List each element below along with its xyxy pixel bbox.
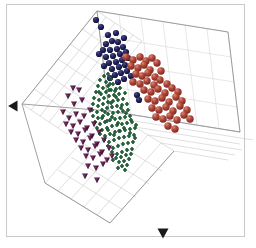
scatter-points-layer bbox=[60, 17, 194, 183]
data-point bbox=[107, 140, 111, 144]
data-point bbox=[91, 102, 95, 106]
data-point bbox=[115, 79, 121, 85]
data-point bbox=[81, 114, 87, 120]
scatter3d-scene bbox=[0, 0, 256, 248]
data-point bbox=[79, 98, 85, 104]
data-point bbox=[159, 115, 166, 122]
data-point bbox=[129, 78, 136, 85]
data-point bbox=[98, 78, 102, 82]
data-point bbox=[110, 105, 114, 109]
data-point bbox=[153, 59, 160, 66]
data-point bbox=[124, 153, 128, 157]
data-point bbox=[118, 86, 122, 90]
data-point bbox=[95, 110, 99, 114]
data-point bbox=[103, 54, 109, 60]
data-point bbox=[127, 62, 134, 69]
data-point bbox=[101, 63, 107, 69]
data-point bbox=[107, 47, 113, 53]
data-point bbox=[120, 150, 124, 154]
data-point bbox=[176, 102, 183, 109]
data-point bbox=[98, 24, 104, 30]
data-point bbox=[154, 85, 161, 92]
data-point bbox=[101, 86, 105, 90]
data-point bbox=[96, 104, 100, 108]
data-point bbox=[92, 96, 96, 100]
data-point bbox=[155, 106, 162, 113]
data-point bbox=[123, 115, 127, 119]
data-point bbox=[96, 51, 102, 57]
data-point bbox=[94, 178, 100, 184]
scatter3d-figure bbox=[0, 0, 256, 248]
data-point bbox=[140, 61, 147, 68]
data-point bbox=[122, 159, 126, 163]
data-point bbox=[90, 156, 96, 162]
data-point bbox=[97, 98, 101, 102]
data-point bbox=[126, 141, 130, 145]
data-point bbox=[91, 122, 97, 128]
data-point bbox=[152, 113, 159, 120]
data-point bbox=[101, 138, 107, 144]
data-point bbox=[103, 41, 109, 47]
data-point bbox=[121, 142, 125, 146]
data-point bbox=[136, 97, 142, 103]
data-point bbox=[121, 35, 127, 41]
data-point bbox=[131, 140, 135, 144]
data-point bbox=[65, 94, 71, 100]
data-point bbox=[105, 32, 111, 38]
data-point bbox=[140, 86, 147, 93]
axes-cube-wireframe bbox=[22, 11, 253, 223]
data-point bbox=[117, 136, 121, 140]
data-point bbox=[95, 126, 99, 130]
data-point bbox=[108, 132, 112, 136]
data-point bbox=[117, 51, 123, 57]
series-cluster-green bbox=[90, 72, 138, 172]
data-point bbox=[110, 124, 114, 128]
data-point bbox=[115, 39, 121, 45]
data-point bbox=[111, 146, 115, 150]
data-point bbox=[110, 53, 116, 59]
data-point bbox=[103, 134, 107, 138]
data-point bbox=[186, 115, 193, 122]
data-point bbox=[144, 95, 151, 102]
data-point bbox=[113, 30, 119, 36]
data-point bbox=[66, 116, 72, 122]
data-point bbox=[151, 97, 158, 104]
data-point bbox=[162, 103, 169, 110]
data-point bbox=[122, 53, 129, 60]
data-point bbox=[109, 66, 115, 72]
data-point bbox=[75, 132, 81, 138]
data-point bbox=[119, 155, 123, 159]
data-point bbox=[82, 174, 88, 180]
data-point bbox=[101, 102, 105, 106]
data-point bbox=[144, 69, 151, 76]
data-point bbox=[121, 97, 125, 101]
data-point bbox=[110, 150, 114, 154]
axis-arrow-layer bbox=[8, 101, 168, 239]
data-point bbox=[93, 17, 99, 23]
data-point bbox=[63, 122, 69, 128]
data-point bbox=[122, 135, 126, 139]
data-point bbox=[121, 76, 127, 82]
data-point bbox=[171, 125, 178, 132]
data-point bbox=[60, 110, 66, 116]
data-point bbox=[164, 122, 171, 129]
data-point bbox=[68, 130, 74, 136]
data-point bbox=[117, 92, 121, 96]
data-point bbox=[116, 64, 122, 70]
data-point bbox=[76, 88, 82, 94]
data-point bbox=[109, 38, 115, 44]
cube-edges bbox=[22, 11, 240, 223]
data-point bbox=[158, 94, 165, 101]
data-point bbox=[148, 104, 155, 111]
data-point bbox=[147, 88, 154, 95]
data-point bbox=[166, 112, 173, 119]
data-point bbox=[96, 116, 100, 120]
data-point bbox=[118, 70, 124, 76]
data-point bbox=[100, 162, 106, 168]
data-point bbox=[120, 122, 124, 126]
data-point bbox=[112, 138, 116, 142]
data-point bbox=[173, 116, 180, 123]
data-point bbox=[116, 166, 120, 170]
bottom-axis-arrow bbox=[158, 229, 169, 239]
data-point bbox=[125, 121, 129, 125]
